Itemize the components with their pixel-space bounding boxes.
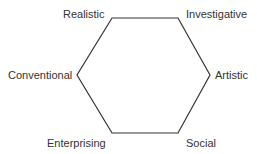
riasec-hexagon-diagram: Realistic Investigative Conventional Art… — [0, 0, 257, 154]
label-enterprising: Enterprising — [47, 137, 106, 149]
hexagon-outline — [77, 18, 210, 133]
label-artistic: Artistic — [215, 69, 248, 81]
label-conventional: Conventional — [8, 69, 72, 81]
label-realistic: Realistic — [63, 8, 105, 20]
label-social: Social — [186, 137, 216, 149]
label-investigative: Investigative — [186, 8, 247, 20]
